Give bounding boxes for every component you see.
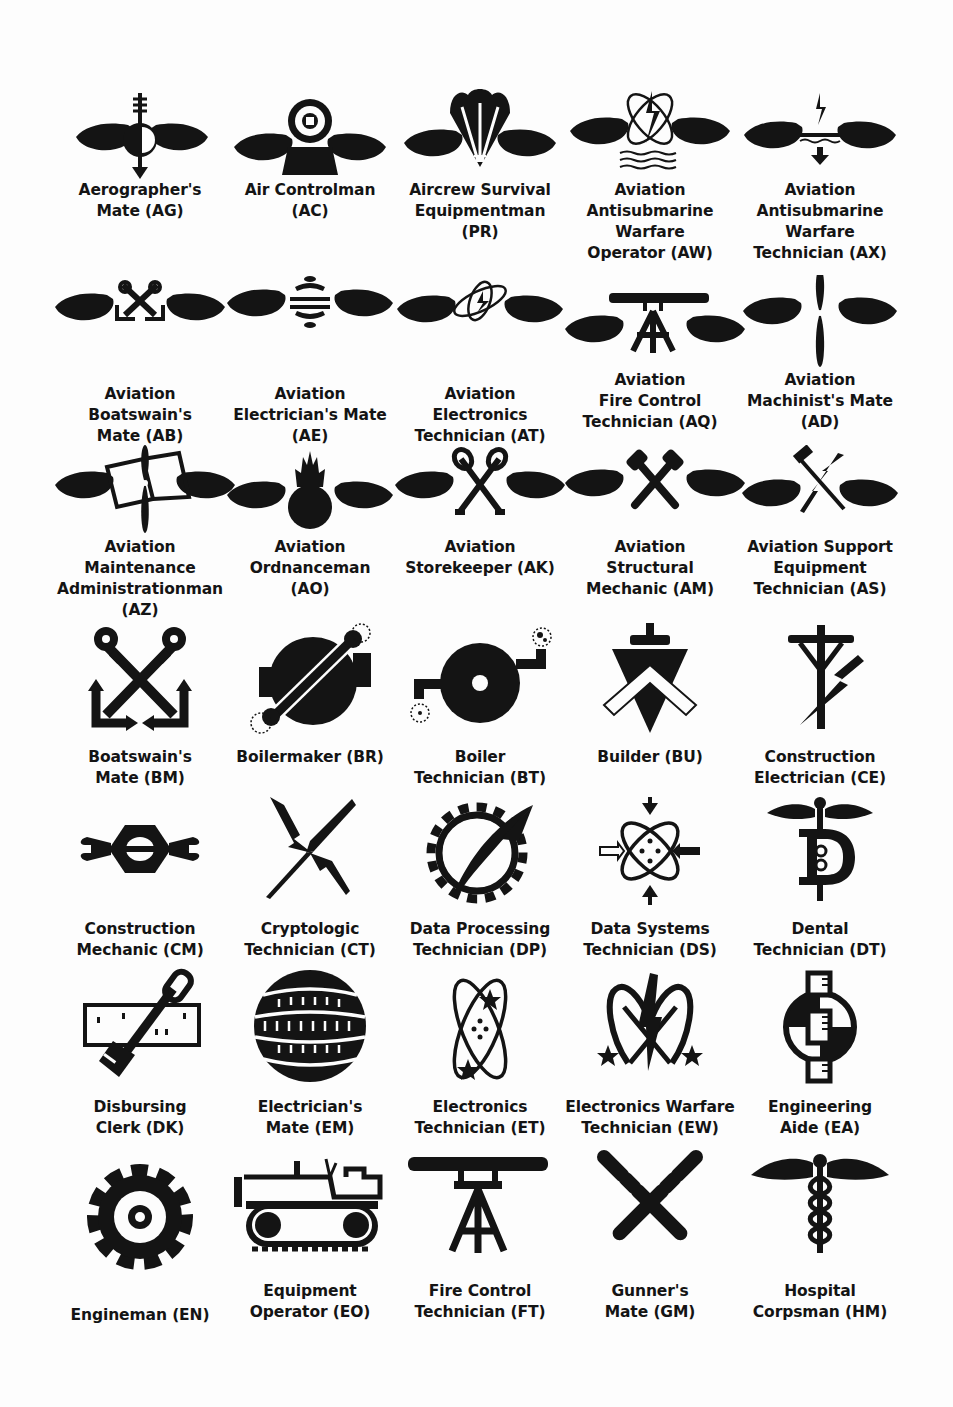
aviation-storekeeper-icon — [395, 445, 565, 537]
aviation-machinists-mate-icon — [735, 275, 905, 370]
rating-cell-ds: Data Systems Technician (DS) — [565, 795, 735, 961]
rating-label: Electronics Technician (ET) — [395, 1097, 565, 1139]
ratings-row-3: Aviation Maintenance Administrationman (… — [55, 445, 905, 623]
rating-label: Aviation Antisubmarine Warfare Operator … — [565, 180, 735, 264]
ratings-row-4: Boatswain's Mate (BM) Boilermaker (BR) — [55, 623, 905, 795]
rating-cell-br: Boilermaker (BR) — [225, 623, 395, 768]
electronics-warfare-technician-icon — [590, 967, 710, 1085]
rating-cell-dp: Data Processing Technician (DP) — [395, 795, 565, 961]
aviation-antisubmarine-warfare-technician-icon — [740, 85, 900, 180]
rating-label: Dental Technician (DT) — [735, 919, 905, 961]
ratings-sheet: Aerographer's Mate (AG) Air Controlman (… — [55, 85, 905, 1337]
rating-cell-cm: Construction Mechanic (CM) — [55, 795, 225, 961]
rating-cell-ae: Aviation Electrician's Mate (AE) — [225, 275, 395, 447]
disbursing-clerk-icon — [75, 967, 205, 1085]
rating-cell-az: Aviation Maintenance Administrationman (… — [55, 445, 225, 621]
rating-cell-ad: Aviation Machinist's Mate (AD) — [735, 275, 905, 433]
data-processing-technician-icon — [415, 795, 545, 907]
rating-label: Data Processing Technician (DP) — [395, 919, 565, 961]
hospital-corpsman-icon — [745, 1147, 895, 1257]
aviation-antisubmarine-warfare-operator-icon — [570, 85, 730, 180]
ratings-row-2: Aviation Boatswain's Mate (AB) Aviation … — [55, 275, 905, 445]
rating-cell-em: Electrician's Mate (EM) — [225, 967, 395, 1139]
construction-mechanic-icon — [75, 795, 205, 907]
rating-label: Data Systems Technician (DS) — [565, 919, 735, 961]
rating-cell-hm: Hospital Corpsman (HM) — [735, 1147, 905, 1323]
rating-label: Boatswain's Mate (BM) — [55, 747, 225, 789]
rating-cell-at: Aviation Electronics Technician (AT) — [395, 275, 565, 447]
boilermaker-icon — [235, 623, 385, 735]
ratings-row-5: Construction Mechanic (CM) Cryptologic T… — [55, 795, 905, 967]
air-controlman-icon — [230, 85, 390, 180]
rating-cell-ao: Aviation Ordnanceman (AO) — [225, 445, 395, 600]
rating-cell-bt: Boiler Technician (BT) — [395, 623, 565, 789]
rating-label: Cryptologic Technician (CT) — [225, 919, 395, 961]
rating-label: Gunner's Mate (GM) — [565, 1281, 735, 1323]
rating-label: Disbursing Clerk (DK) — [55, 1097, 225, 1139]
rating-label: Aviation Storekeeper (AK) — [395, 537, 565, 579]
rating-cell-as: Aviation Support Equipment Technician (A… — [735, 445, 905, 600]
rating-cell-aq: Aviation Fire Control Technician (AQ) — [565, 275, 735, 433]
cryptologic-technician-icon — [250, 795, 370, 907]
rating-cell-dt: Dental Technician (DT) — [735, 795, 905, 961]
rating-label: Aviation Structural Mechanic (AM) — [565, 537, 735, 600]
ratings-row-1: Aerographer's Mate (AG) Air Controlman (… — [55, 85, 905, 275]
aviation-ordnanceman-icon — [225, 445, 395, 537]
equipment-operator-icon — [230, 1147, 390, 1257]
rating-cell-pr: Aircrew Survival Equipmentman (PR) — [395, 85, 565, 243]
gunners-mate-icon — [590, 1147, 710, 1257]
aviation-electronics-technician-icon — [395, 275, 565, 370]
rating-label: Electronics Warfare Technician (EW) — [565, 1097, 735, 1139]
rating-label: Aviation Electronics Technician (AT) — [395, 384, 565, 447]
fire-control-technician-icon — [400, 1147, 560, 1257]
rating-label: Aviation Support Equipment Technician (A… — [735, 537, 905, 600]
aviation-structural-mechanic-icon — [565, 445, 745, 537]
rating-label: Aviation Maintenance Administrationman (… — [55, 537, 225, 621]
boiler-technician-icon — [400, 623, 560, 735]
ratings-row-6: Disbursing Clerk (DK) Electrician's Mate… — [55, 967, 905, 1147]
rating-cell-eo: Equipment Operator (EO) — [225, 1147, 395, 1323]
engineering-aide-icon — [760, 967, 880, 1085]
construction-electrician-icon — [760, 623, 880, 735]
rating-label: Engineering Aide (EA) — [735, 1097, 905, 1139]
rating-cell-gm: Gunner's Mate (GM) — [565, 1147, 735, 1323]
rating-label: Aviation Electrician's Mate (AE) — [225, 384, 395, 447]
builder-icon — [590, 623, 710, 735]
rating-cell-et: Electronics Technician (ET) — [395, 967, 565, 1139]
rating-label: Aviation Boatswain's Mate (AB) — [55, 384, 225, 447]
rating-label: Builder (BU) — [565, 747, 735, 768]
aviation-fire-control-technician-icon — [565, 275, 745, 370]
data-systems-technician-icon — [590, 795, 710, 907]
rating-cell-ax: Aviation Antisubmarine Warfare Technicia… — [735, 85, 905, 264]
rating-label: Construction Electrician (CE) — [735, 747, 905, 789]
rating-label: Air Controlman (AC) — [225, 180, 395, 222]
aircrew-survival-equipmentman-icon — [400, 85, 560, 180]
rating-label: Equipment Operator (EO) — [225, 1281, 395, 1323]
rating-label: Construction Mechanic (CM) — [55, 919, 225, 961]
electronics-technician-icon — [420, 967, 540, 1085]
rating-cell-aw: Aviation Antisubmarine Warfare Operator … — [565, 85, 735, 264]
aviation-boatswains-mate-icon — [55, 275, 225, 370]
rating-cell-ac: Air Controlman (AC) — [225, 85, 395, 222]
rating-cell-bm: Boatswain's Mate (BM) — [55, 623, 225, 789]
rating-label: Fire Control Technician (FT) — [395, 1281, 565, 1323]
aerographers-mate-icon — [70, 85, 210, 180]
rating-label: Aircrew Survival Equipmentman (PR) — [395, 180, 565, 243]
rating-cell-ag: Aerographer's Mate (AG) — [55, 85, 225, 222]
aviation-support-equipment-technician-icon — [740, 445, 900, 537]
rating-label: Aerographer's Mate (AG) — [55, 180, 225, 222]
dental-technician-icon — [755, 795, 885, 907]
rating-cell-am: Aviation Structural Mechanic (AM) — [565, 445, 735, 600]
engineman-icon — [75, 1147, 205, 1275]
ratings-row-7: Engineman (EN) Equipment Operator (EO) — [55, 1147, 905, 1337]
rating-label: Aviation Fire Control Technician (AQ) — [565, 370, 735, 433]
rating-label: Hospital Corpsman (HM) — [735, 1281, 905, 1323]
rating-label: Aviation Machinist's Mate (AD) — [735, 370, 905, 433]
rating-cell-ew: Electronics Warfare Technician (EW) — [565, 967, 735, 1139]
rating-cell-en: Engineman (EN) — [55, 1147, 225, 1326]
rating-cell-ea: Engineering Aide (EA) — [735, 967, 905, 1139]
rating-cell-ab: Aviation Boatswain's Mate (AB) — [55, 275, 225, 447]
rating-label: Boilermaker (BR) — [225, 747, 395, 768]
boatswains-mate-icon — [80, 623, 200, 735]
aviation-maintenance-administrationman-icon — [55, 445, 235, 537]
